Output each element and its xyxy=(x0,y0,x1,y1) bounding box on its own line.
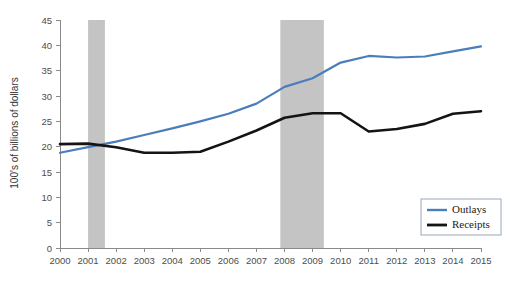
x-tick-label: 2007 xyxy=(246,255,267,266)
y-tick-label: 15 xyxy=(41,167,52,178)
y-tick-label: 40 xyxy=(41,40,52,51)
y-tick-label: 0 xyxy=(47,243,52,254)
x-tick-label: 2014 xyxy=(442,255,463,266)
line-chart: 051015202530354045 200020012002200320042… xyxy=(0,0,510,283)
x-tick-label: 2010 xyxy=(330,255,351,266)
y-tick-label: 25 xyxy=(41,116,52,127)
x-tick-label: 2004 xyxy=(162,255,183,266)
chart-figure: 051015202530354045 200020012002200320042… xyxy=(0,0,510,283)
tick-marks-group xyxy=(56,20,481,252)
y-axis-title: 100's of billions of dollars xyxy=(9,77,20,188)
chart-legend: OutlaysReceipts xyxy=(421,199,501,235)
recession-band-group xyxy=(88,20,324,248)
y-tick-label: 30 xyxy=(41,91,52,102)
x-tick-label: 2012 xyxy=(386,255,407,266)
recession-band-2 xyxy=(280,20,324,248)
x-tick-label: 2003 xyxy=(134,255,155,266)
x-tick-label-group: 2000200120022003200420052006200720082009… xyxy=(49,255,491,266)
y-tick-label-group: 051015202530354045 xyxy=(41,15,52,254)
series-line-outlays xyxy=(60,46,481,152)
axes-group xyxy=(60,20,481,248)
x-tick-label: 2000 xyxy=(49,255,70,266)
y-tick-label: 20 xyxy=(41,141,52,152)
axis-lines xyxy=(60,20,481,248)
legend-label-receipts: Receipts xyxy=(452,218,490,230)
y-tick-label: 5 xyxy=(47,217,52,228)
data-series-group xyxy=(60,46,481,152)
x-tick-label: 2009 xyxy=(302,255,323,266)
legend-label-outlays: Outlays xyxy=(452,203,486,215)
y-tick-label: 35 xyxy=(41,65,52,76)
y-tick-label: 45 xyxy=(41,15,52,26)
x-tick-label: 2015 xyxy=(470,255,491,266)
x-tick-label: 2006 xyxy=(218,255,239,266)
series-line-receipts xyxy=(60,111,481,153)
x-tick-label: 2001 xyxy=(77,255,98,266)
x-tick-label: 2013 xyxy=(414,255,435,266)
recession-band-1 xyxy=(88,20,105,248)
x-tick-label: 2011 xyxy=(359,255,379,266)
x-tick-label: 2005 xyxy=(190,255,211,266)
x-tick-label: 2008 xyxy=(274,255,295,266)
y-tick-label: 10 xyxy=(41,192,52,203)
x-tick-label: 2002 xyxy=(106,255,127,266)
